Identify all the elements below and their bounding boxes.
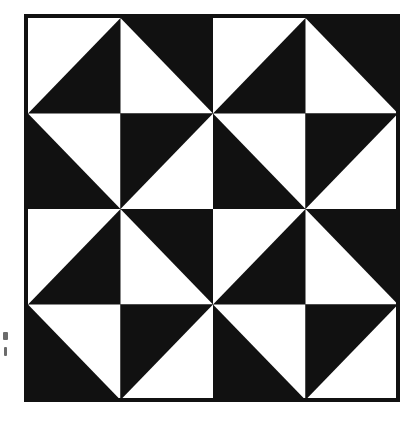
scan-artifact-upper xyxy=(3,332,8,340)
hst-cell xyxy=(306,305,399,401)
quilt-block-diagram xyxy=(0,0,412,423)
hst-cell xyxy=(121,18,214,114)
figure-canvas: Half-Square Triangle Pinwheel Quilt Bloc… xyxy=(0,0,412,423)
hst-cell xyxy=(28,305,121,401)
hst-cell xyxy=(121,114,214,210)
hst-cell xyxy=(213,18,306,114)
hst-cell xyxy=(121,209,214,305)
hst-cell xyxy=(306,114,399,210)
hst-cell xyxy=(121,305,214,401)
hst-cell xyxy=(213,305,306,401)
triangle-cells-layer xyxy=(28,18,399,401)
scan-artifact-lower xyxy=(4,347,7,356)
hst-cell xyxy=(28,209,121,305)
hst-cell xyxy=(213,209,306,305)
hst-cell xyxy=(213,114,306,210)
hst-cell xyxy=(306,209,399,305)
hst-cell xyxy=(28,114,121,210)
hst-cell xyxy=(306,18,399,114)
hst-cell xyxy=(28,18,121,114)
